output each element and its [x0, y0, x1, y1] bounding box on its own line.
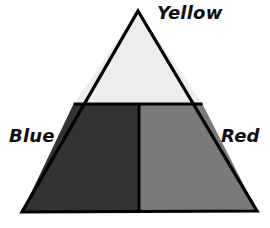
region-label-blue: Blue	[9, 127, 55, 145]
region-label-yellow: Yellow	[157, 4, 222, 22]
region-blue	[22, 104, 139, 212]
colour-triangle-diagram: Yellow Blue Red	[0, 0, 270, 228]
region-red	[139, 104, 257, 212]
region-label-red: Red	[221, 127, 260, 145]
triangle-graphic	[0, 0, 270, 228]
